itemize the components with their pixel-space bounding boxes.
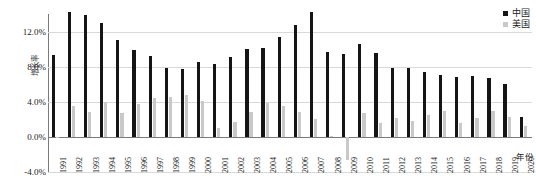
bar-china[interactable] — [374, 53, 377, 137]
bar-usa[interactable] — [330, 136, 333, 137]
bar-usa[interactable] — [475, 118, 478, 137]
bar-china[interactable] — [278, 37, 281, 137]
bar-usa[interactable] — [88, 112, 91, 137]
x-axis-tick-label: 2005 — [285, 157, 294, 173]
bar-group — [306, 14, 322, 172]
bar-group — [193, 14, 209, 172]
bar-china[interactable] — [84, 15, 87, 137]
bar-usa[interactable] — [298, 112, 301, 137]
bar-usa[interactable] — [427, 115, 430, 137]
x-axis-tick-label: 1993 — [92, 157, 101, 173]
bar-china[interactable] — [261, 48, 264, 137]
bar-usa[interactable] — [443, 111, 446, 136]
y-axis-tick-label: 8.0% — [27, 62, 46, 72]
bar-china[interactable] — [165, 68, 168, 136]
bar-china[interactable] — [423, 72, 426, 137]
bar-china[interactable] — [213, 64, 216, 137]
growth-rate-bar-chart: 中国美国 增长率 12.0%8.0%4.0%0.0%-4.0% 19911992… — [0, 0, 536, 191]
bar-china[interactable] — [439, 75, 442, 136]
bar-usa[interactable] — [169, 97, 172, 137]
bar-china[interactable] — [52, 55, 55, 137]
bar-china[interactable] — [100, 23, 103, 137]
bar-group — [435, 14, 451, 172]
bar-usa[interactable] — [459, 123, 462, 137]
bar-group — [145, 14, 161, 172]
x-axis-tick-label: 2003 — [253, 157, 262, 173]
bar-group — [419, 14, 435, 172]
bar-group — [209, 14, 225, 172]
y-axis-tick-label: -4.0% — [24, 167, 46, 177]
x-axis-tick-label: 1998 — [172, 157, 181, 173]
bar-china[interactable] — [455, 77, 458, 137]
bar-china[interactable] — [326, 52, 329, 137]
bar-group — [225, 14, 241, 172]
bar-usa[interactable] — [379, 123, 382, 137]
bar-group — [274, 14, 290, 172]
bar-usa[interactable] — [201, 101, 204, 137]
bar-group — [48, 14, 64, 172]
bar-usa[interactable] — [314, 119, 317, 137]
x-axis-tick-label: 1992 — [75, 157, 84, 173]
x-axis-title: 年份 — [516, 150, 534, 162]
bar-group — [322, 14, 338, 172]
bar-usa[interactable] — [56, 137, 59, 138]
bar-usa[interactable] — [72, 106, 75, 137]
bar-china[interactable] — [68, 12, 71, 137]
bar-usa[interactable] — [153, 98, 156, 137]
bar-china[interactable] — [471, 76, 474, 137]
bar-usa[interactable] — [185, 95, 188, 137]
bar-usa[interactable] — [491, 111, 494, 136]
bar-china[interactable] — [229, 57, 232, 137]
bar-usa[interactable] — [362, 113, 365, 137]
bar-china[interactable] — [116, 40, 119, 137]
bar-group — [64, 14, 80, 172]
bar-china[interactable] — [503, 84, 506, 137]
bar-usa[interactable] — [395, 118, 398, 137]
bar-china[interactable] — [149, 56, 152, 137]
bar-china[interactable] — [310, 12, 313, 137]
bar-group — [451, 14, 467, 172]
bar-usa[interactable] — [524, 126, 527, 137]
bar-group — [338, 14, 354, 172]
bar-usa[interactable] — [217, 128, 220, 137]
x-axis-tick-label: 2000 — [204, 157, 213, 173]
bar-china[interactable] — [487, 78, 490, 137]
bar-usa[interactable] — [120, 113, 123, 137]
bar-usa[interactable] — [104, 102, 107, 137]
bar-china[interactable] — [407, 68, 410, 136]
bar-group — [371, 14, 387, 172]
x-axis-tick-label: 2004 — [269, 157, 278, 173]
bar-china[interactable] — [245, 49, 248, 137]
bar-group — [129, 14, 145, 172]
x-axis-tick-labels: 1991199219931994199519961997199819992000… — [48, 173, 532, 191]
bar-china[interactable] — [132, 50, 135, 137]
x-axis-tick-label: 2012 — [398, 157, 407, 173]
bar-china[interactable] — [342, 54, 345, 137]
bar-china[interactable] — [520, 117, 523, 137]
bar-usa[interactable] — [249, 112, 252, 137]
x-axis-tick-label: 2009 — [350, 157, 359, 173]
bar-usa[interactable] — [508, 117, 511, 137]
bar-usa[interactable] — [266, 103, 269, 137]
bar-china[interactable] — [181, 69, 184, 137]
bar-usa[interactable] — [137, 104, 140, 137]
bar-china[interactable] — [358, 44, 361, 137]
x-axis-tick-label: 2013 — [414, 157, 423, 173]
bar-china[interactable] — [391, 68, 394, 137]
bar-group — [258, 14, 274, 172]
x-axis-tick-label: 2018 — [495, 157, 504, 173]
bar-group — [355, 14, 371, 172]
bar-china[interactable] — [294, 25, 297, 136]
bar-usa[interactable] — [282, 106, 285, 137]
bar-china[interactable] — [197, 62, 200, 137]
bar-series-container — [48, 14, 532, 172]
bar-group — [80, 14, 96, 172]
bar-usa[interactable] — [233, 122, 236, 137]
bar-usa[interactable] — [346, 137, 349, 160]
x-axis-tick-label: 1999 — [188, 157, 197, 173]
bar-group — [403, 14, 419, 172]
x-axis-tick-label: 1995 — [124, 157, 133, 173]
bar-usa[interactable] — [411, 121, 414, 137]
x-axis-tick-label: 1997 — [156, 157, 165, 173]
bar-group — [177, 14, 193, 172]
